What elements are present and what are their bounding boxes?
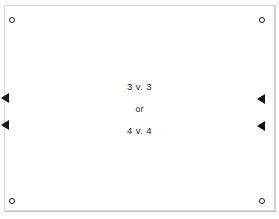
format-line-secondary: 4 v. 4 [0,120,279,142]
center-label-block: 3 v. 3 or 4 v. 4 [0,76,279,142]
corner-marker-top-right-icon [259,17,265,23]
corner-marker-bottom-right-icon [259,198,265,204]
frame-bottom-edge [4,211,276,212]
format-line-primary: 3 v. 3 [0,76,279,98]
corner-marker-top-left-icon [9,17,15,23]
field-layout-diagram: 3 v. 3 or 4 v. 4 [0,0,279,219]
corner-marker-bottom-left-icon [9,198,15,204]
format-conjunction: or [0,98,279,120]
